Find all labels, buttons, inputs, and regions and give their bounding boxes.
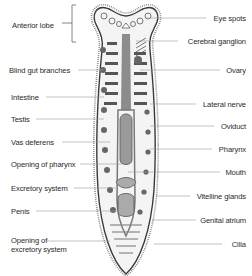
label-vitelline-glands: Vitelline glands <box>197 192 246 201</box>
anterior-lobe-bracket <box>62 5 76 42</box>
label-anterior-lobe: Anterior lobe <box>12 21 54 30</box>
label-oviduct: Oviduct <box>221 122 246 131</box>
label-vas-deferens: Vas deferens <box>11 138 54 147</box>
pharynx <box>120 114 132 165</box>
label-cilia: Cilia <box>232 240 246 249</box>
label-ovary: Ovary <box>226 66 246 75</box>
label-genital-atrium: Genital atrium <box>200 216 246 225</box>
label-eye-spots: Eye spots <box>214 14 246 23</box>
label-opening-of-pharynx: Opening of pharynx <box>11 160 75 169</box>
label-intestine: Intestine <box>11 93 39 102</box>
intestine-trunk <box>121 34 131 110</box>
label-lateral-nerve: Lateral nerve <box>203 100 246 109</box>
label-excretory-system: Excretory system <box>11 184 68 193</box>
label-opening-of-excretory-system: Opening of excretory system <box>11 236 67 254</box>
label-pharynx: Pharynx <box>219 145 246 154</box>
label-blind-gut-branches: Blind gut branches <box>9 66 70 75</box>
label-testis: Testis <box>11 115 30 124</box>
label-cerebral-ganglion: Cerebral ganglion <box>188 37 246 46</box>
planarian-anatomy-diagram: Anterior lobe Blind gut branches Intesti… <box>0 0 252 276</box>
label-mouth: Mouth <box>225 168 246 177</box>
label-penis: Penis <box>11 207 30 216</box>
